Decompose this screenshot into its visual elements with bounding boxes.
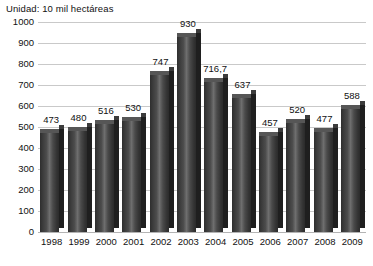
bar-top-face — [314, 128, 333, 132]
bar-front-face — [177, 37, 196, 232]
plot-area: 473480516530747930716,7637457520477588 — [38, 22, 366, 232]
bar-series — [38, 22, 366, 232]
bar-side-face — [223, 78, 228, 229]
bar-value-label: 477 — [308, 114, 342, 124]
bar-top-face — [232, 94, 251, 98]
bar-top-face — [204, 78, 223, 82]
bar-side-face — [360, 105, 365, 229]
bar-top-side-face — [278, 128, 283, 132]
bar-front-face — [341, 109, 360, 233]
bar-front-face — [68, 131, 87, 232]
bar-top-face — [40, 129, 59, 133]
bar-top-face — [259, 132, 278, 136]
bar-front-face — [150, 75, 169, 232]
x-axis: 1998199920002001200220032004200520062007… — [38, 236, 366, 250]
bar-top-side-face — [169, 67, 174, 71]
gridline — [38, 232, 366, 233]
y-axis-tick-label: 0 — [4, 227, 34, 237]
bar-side-face — [251, 94, 256, 228]
bar-front-face — [204, 82, 223, 233]
bar-front-face — [259, 136, 278, 232]
bar-top-face — [95, 120, 114, 124]
bar-top-face — [150, 71, 169, 75]
bar-top-side-face — [223, 74, 228, 78]
bar-top-side-face — [196, 29, 201, 33]
bar-value-label: 637 — [226, 80, 260, 90]
bar-top-side-face — [333, 124, 338, 128]
bar-top-side-face — [114, 116, 119, 120]
bar-side-face — [305, 119, 310, 228]
bar-top-side-face — [59, 125, 64, 129]
bar-top-side-face — [360, 101, 365, 105]
bar-top-face — [286, 119, 305, 123]
bar-side-face — [169, 71, 174, 228]
bar-value-label: 747 — [144, 57, 178, 67]
y-axis-tick-label: 1000 — [4, 17, 34, 27]
bar-top-face — [68, 127, 87, 131]
bar-top-side-face — [251, 90, 256, 94]
y-axis-tick-label: 800 — [4, 59, 34, 69]
y-axis-tick-label: 400 — [4, 143, 34, 153]
y-axis-tick-label: 200 — [4, 185, 34, 195]
bar-value-label: 930 — [171, 19, 205, 29]
bar-front-face — [40, 133, 59, 232]
bar-top-side-face — [141, 113, 146, 117]
bar-top-side-face — [87, 123, 92, 127]
bar-front-face — [122, 121, 141, 232]
y-axis-tick-label: 100 — [4, 206, 34, 216]
bar-side-face — [114, 120, 119, 228]
bar-side-face — [196, 33, 201, 228]
bar-value-label: 716,7 — [198, 64, 232, 74]
y-axis-tick-label: 500 — [4, 122, 34, 132]
bar-side-face — [59, 129, 64, 228]
y-axis-tick-label: 900 — [4, 38, 34, 48]
bar-top-face — [177, 33, 196, 37]
bar-front-face — [286, 123, 305, 232]
y-axis-tick-label: 300 — [4, 164, 34, 174]
y-axis-tick-label: 600 — [4, 101, 34, 111]
bar-top-face — [122, 117, 141, 121]
bar-value-label: 530 — [116, 103, 150, 113]
bar-value-label: 457 — [253, 118, 287, 128]
bar-top-face — [341, 105, 360, 109]
bar-front-face — [232, 98, 251, 232]
bar-side-face — [87, 127, 92, 228]
bar-side-face — [333, 128, 338, 228]
chart-unit-caption: Unidad: 10 mil hectáreas — [6, 3, 113, 15]
bar-front-face — [314, 132, 333, 232]
x-axis-tick-label: 2009 — [335, 236, 370, 247]
bar-front-face — [95, 124, 114, 232]
bar-value-label: 588 — [335, 91, 369, 101]
y-axis-tick-label: 700 — [4, 80, 34, 90]
bar-side-face — [141, 117, 146, 228]
y-axis: 10009008007006005004003002001000 — [0, 22, 34, 232]
bar-chart: Unidad: 10 mil hectáreas 100090080070060… — [0, 0, 373, 266]
bar-side-face — [278, 132, 283, 228]
